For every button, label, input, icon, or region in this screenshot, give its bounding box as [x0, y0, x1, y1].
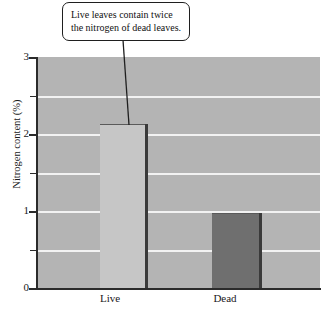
bar-live-right-edge — [145, 124, 148, 288]
bar-dead-right-edge — [259, 213, 262, 288]
annotation-callout-text: Live leaves contain twice the nitrogen o… — [64, 9, 188, 34]
annotation-callout-box: Live leaves contain twice the nitrogen o… — [62, 2, 190, 41]
gridline-1_5 — [37, 173, 320, 175]
y-tick-0_5 — [30, 250, 37, 252]
gridline-0_5 — [37, 250, 320, 252]
bar-dead-fill — [212, 213, 262, 288]
x-tick-label-dead: Dead — [190, 292, 260, 305]
y-tick-label-0: 0 — [3, 282, 29, 293]
nitrogen-content-bar-chart: 3 2 1 0 Nitrogen content (%) Live Dead L… — [0, 0, 329, 310]
annotation-leader-line — [110, 40, 140, 126]
y-tick-2 — [29, 134, 37, 136]
gridline-2_5 — [37, 96, 320, 98]
annotation-line-1: Live leaves contain twice — [71, 9, 173, 20]
y-tick-1_5 — [30, 173, 37, 175]
y-tick-3 — [29, 57, 37, 59]
y-tick-2_5 — [30, 96, 37, 98]
bar-live-fill — [100, 124, 148, 288]
gridline-1_0 — [37, 211, 320, 213]
y-tick-label-3: 3 — [3, 51, 29, 62]
bar-dead — [212, 213, 262, 288]
annotation-line-2: the nitrogen of dead leaves. — [71, 22, 181, 33]
plot-area — [37, 57, 320, 288]
x-tick-label-live: Live — [75, 292, 145, 305]
bar-live — [100, 124, 148, 288]
y-tick-1 — [29, 211, 37, 213]
y-tick-0 — [29, 288, 37, 290]
x-axis-line — [36, 288, 321, 290]
bar-dead-top-edge — [212, 213, 262, 214]
gridline-2_0 — [37, 134, 320, 136]
y-axis-title: Nitrogen content (%) — [11, 64, 23, 224]
